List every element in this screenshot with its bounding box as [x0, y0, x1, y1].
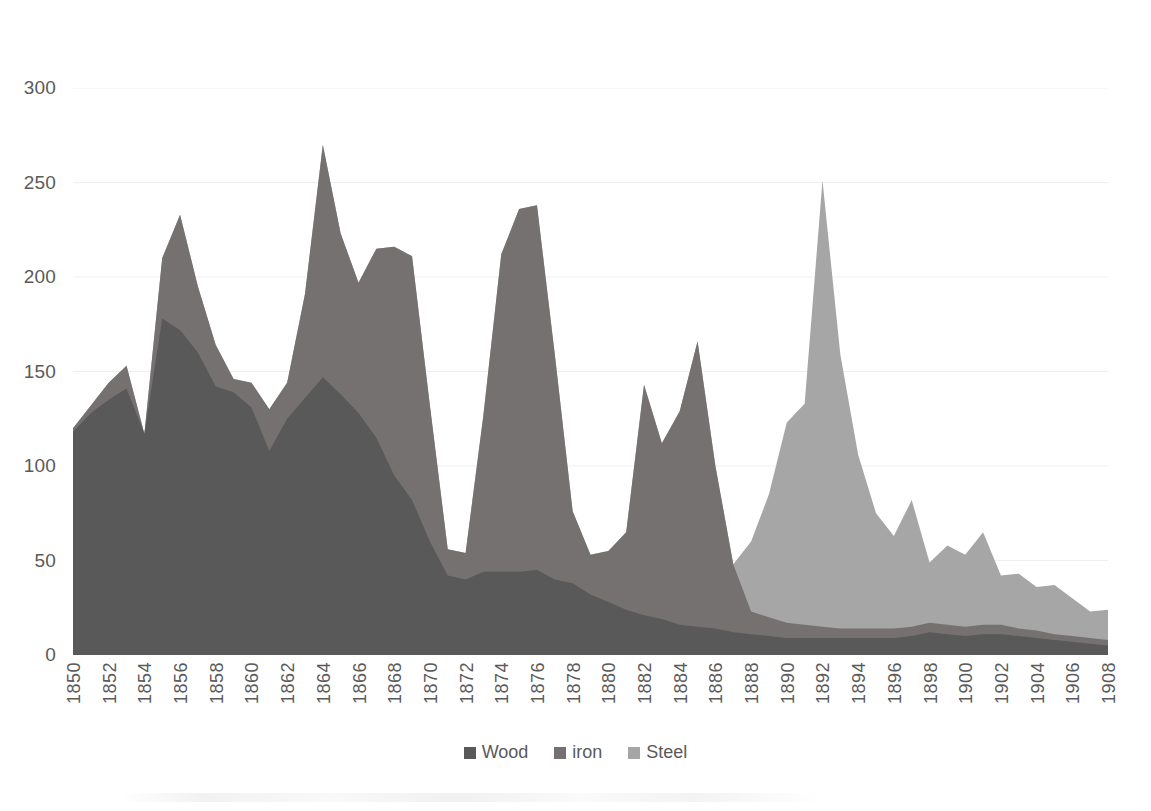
x-axis-tick-label: 1874 [492, 662, 513, 704]
legend-item[interactable]: Steel [628, 742, 687, 763]
y-axis-tick-label: 0 [45, 644, 56, 666]
y-axis-tick-label: 100 [24, 455, 56, 477]
page-artifact [120, 793, 820, 802]
x-axis-tick-label: 1854 [135, 662, 156, 704]
legend-swatch-icon [464, 747, 476, 759]
x-axis-tick-label: 1886 [706, 662, 727, 704]
x-axis-tick-label: 1902 [992, 662, 1013, 704]
x-axis-tick-label: 1894 [849, 662, 870, 704]
x-axis-tick-label: 1862 [278, 662, 299, 704]
x-axis-tick-label: 1872 [457, 662, 478, 704]
x-axis: 1850185218541856185818601862186418661868… [73, 662, 1108, 742]
x-axis-tick-label: 1896 [885, 662, 906, 704]
x-axis-tick-label: 1864 [314, 662, 335, 704]
y-axis-tick-label: 300 [24, 77, 56, 99]
legend-label: Steel [646, 742, 687, 763]
x-axis-tick-label: 1888 [742, 662, 763, 704]
legend-swatch-icon [628, 747, 640, 759]
plot-svg [73, 88, 1108, 655]
x-axis-tick-label: 1870 [421, 662, 442, 704]
series-areas [73, 145, 1108, 655]
x-axis-tick-label: 1884 [671, 662, 692, 704]
x-axis-tick-label: 1866 [350, 662, 371, 704]
x-axis-tick-label: 1852 [100, 662, 121, 704]
legend-item[interactable]: Wood [464, 742, 529, 763]
legend-label: iron [572, 742, 602, 763]
x-axis-tick-label: 1900 [956, 662, 977, 704]
x-axis-tick-label: 1898 [921, 662, 942, 704]
x-axis-tick-label: 1858 [207, 662, 228, 704]
x-axis-tick-label: 1892 [813, 662, 834, 704]
x-axis-tick-label: 1904 [1028, 662, 1049, 704]
chart-legend: WoodironSteel [0, 742, 1151, 763]
legend-label: Wood [482, 742, 529, 763]
x-axis-tick-label: 1856 [171, 662, 192, 704]
x-axis-tick-label: 1880 [599, 662, 620, 704]
legend-swatch-icon [554, 747, 566, 759]
x-axis-tick-label: 1878 [564, 662, 585, 704]
x-axis-tick-label: 1850 [64, 662, 85, 704]
area-chart: 050100150200250300 185018521854185618581… [0, 0, 1151, 811]
x-axis-tick-label: 1906 [1063, 662, 1084, 704]
x-axis-tick-label: 1908 [1099, 662, 1120, 704]
x-axis-tick-label: 1860 [242, 662, 263, 704]
y-axis: 050100150200250300 [0, 88, 64, 655]
y-axis-tick-label: 250 [24, 172, 56, 194]
legend-item[interactable]: iron [554, 742, 602, 763]
y-axis-tick-label: 200 [24, 266, 56, 288]
y-axis-tick-label: 50 [34, 550, 56, 572]
x-axis-tick-label: 1868 [385, 662, 406, 704]
y-axis-tick-label: 150 [24, 361, 56, 383]
x-axis-tick-label: 1882 [635, 662, 656, 704]
x-axis-tick-label: 1890 [778, 662, 799, 704]
plot-area [73, 88, 1108, 655]
x-axis-tick-label: 1876 [528, 662, 549, 704]
